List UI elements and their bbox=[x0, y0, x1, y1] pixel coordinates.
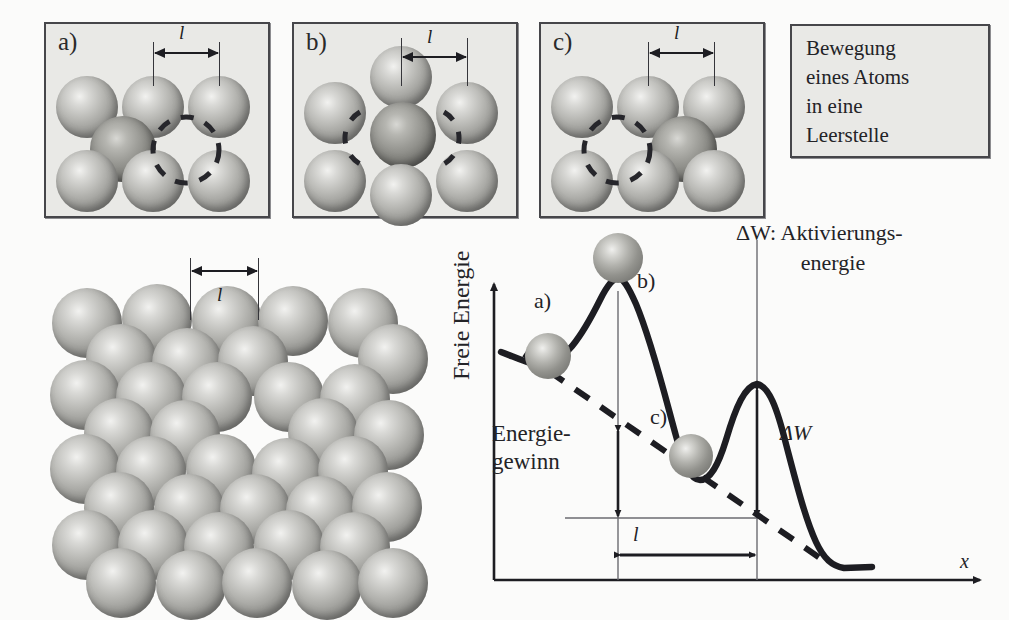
activation-energy-line-2: energie bbox=[736, 248, 986, 278]
caption-box: Bewegung eines Atoms in eine Leerstelle bbox=[790, 24, 990, 158]
measure-tick bbox=[219, 42, 220, 86]
distance-label-lattice: l bbox=[217, 284, 222, 306]
atom bbox=[358, 548, 428, 618]
atom bbox=[86, 548, 156, 618]
y-axis-label: Freie Energie bbox=[448, 250, 475, 380]
energiegewinn-label: Energie- gewinn bbox=[492, 420, 622, 476]
measure-tick bbox=[258, 258, 259, 320]
energiegewinn-line-1: Energie- bbox=[492, 420, 622, 448]
curve-label-c: c) bbox=[650, 404, 667, 430]
measure-tick bbox=[467, 38, 468, 86]
caption-line-1: Bewegung bbox=[806, 34, 981, 63]
marker-ball-b bbox=[593, 233, 643, 283]
energy-diagram: Freie Energie Energie- gewinn ΔW: Aktivi… bbox=[460, 228, 1009, 620]
panel-a: a) l bbox=[44, 22, 270, 218]
marker-ball-a bbox=[525, 333, 571, 379]
activation-energy-line-1: ΔW: Aktivierungs- bbox=[736, 218, 986, 248]
caption-text: Bewegung eines Atoms in eine Leerstelle bbox=[806, 34, 981, 150]
distance-label-c: l bbox=[674, 22, 679, 44]
caption-line-4: Leerstelle bbox=[806, 121, 981, 150]
curve-label-b: b) bbox=[637, 268, 655, 294]
panel-c: c) l bbox=[539, 22, 765, 218]
measure-tick bbox=[401, 38, 402, 86]
panel-b: b) l bbox=[292, 22, 518, 218]
energiegewinn-line-2: gewinn bbox=[492, 448, 622, 476]
distance-arrow-lattice bbox=[192, 270, 257, 272]
caption-line-2: eines Atoms bbox=[806, 63, 981, 92]
marker-ball-c bbox=[669, 434, 713, 478]
distance-label-b: l bbox=[427, 26, 432, 48]
atom bbox=[222, 548, 292, 618]
atom bbox=[156, 550, 226, 620]
activation-energy-caption: ΔW: Aktivierungs- energie bbox=[736, 218, 986, 278]
atom bbox=[292, 550, 362, 620]
length-l-label: l bbox=[633, 523, 639, 546]
curve-label-a: a) bbox=[534, 288, 551, 314]
delta-w-label: ΔW bbox=[780, 420, 811, 446]
distance-arrow-a bbox=[155, 52, 218, 54]
x-axis-label: x bbox=[960, 550, 969, 573]
caption-line-3: in eine bbox=[806, 92, 981, 121]
distance-label-a: l bbox=[179, 22, 184, 44]
distance-arrow-b bbox=[403, 56, 466, 58]
distance-arrow-c bbox=[650, 52, 713, 54]
figure-root: a) l b) l c) bbox=[0, 0, 1009, 620]
lattice-model: l bbox=[10, 262, 460, 612]
measure-tick bbox=[714, 42, 715, 86]
